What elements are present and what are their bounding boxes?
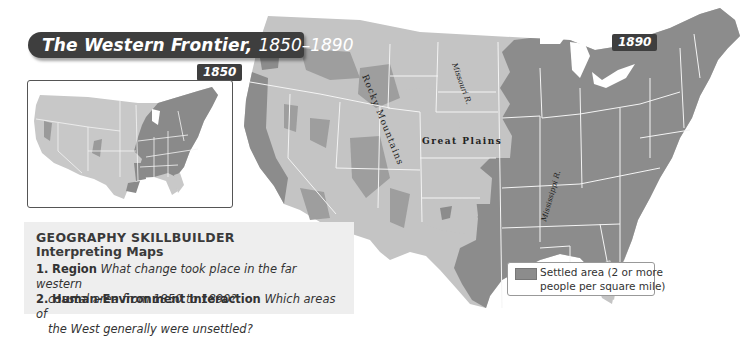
map-legend: Settled area (2 or more people per squar…	[507, 262, 655, 296]
legend-line-1: Settled area (2 or more	[540, 265, 663, 279]
legend-line-2: people per square mile)	[540, 279, 665, 293]
title-years: 1850–1890	[258, 35, 353, 55]
title-main: The Western Frontier,	[42, 35, 252, 55]
inset-map-1850	[27, 80, 233, 208]
settled-area-swatch	[515, 268, 537, 280]
inset-settled-east	[134, 87, 218, 177]
skillbuilder-heading: GEOGRAPHY SKILLBUILDER	[36, 230, 235, 245]
skillbuilder-subheading: Interpreting Maps	[36, 244, 163, 259]
main-map-year-label: 1890	[612, 34, 657, 51]
inset-map-year-label: 1850	[197, 64, 242, 81]
question-2: 2. Human-Environment Interaction Which a…	[36, 292, 336, 337]
geography-skillbuilder: GEOGRAPHY SKILLBUILDER Interpreting Maps…	[24, 222, 354, 314]
map-title: The Western Frontier, 1850–1890	[28, 32, 304, 58]
great-plains-label: Great Plains	[422, 136, 502, 146]
